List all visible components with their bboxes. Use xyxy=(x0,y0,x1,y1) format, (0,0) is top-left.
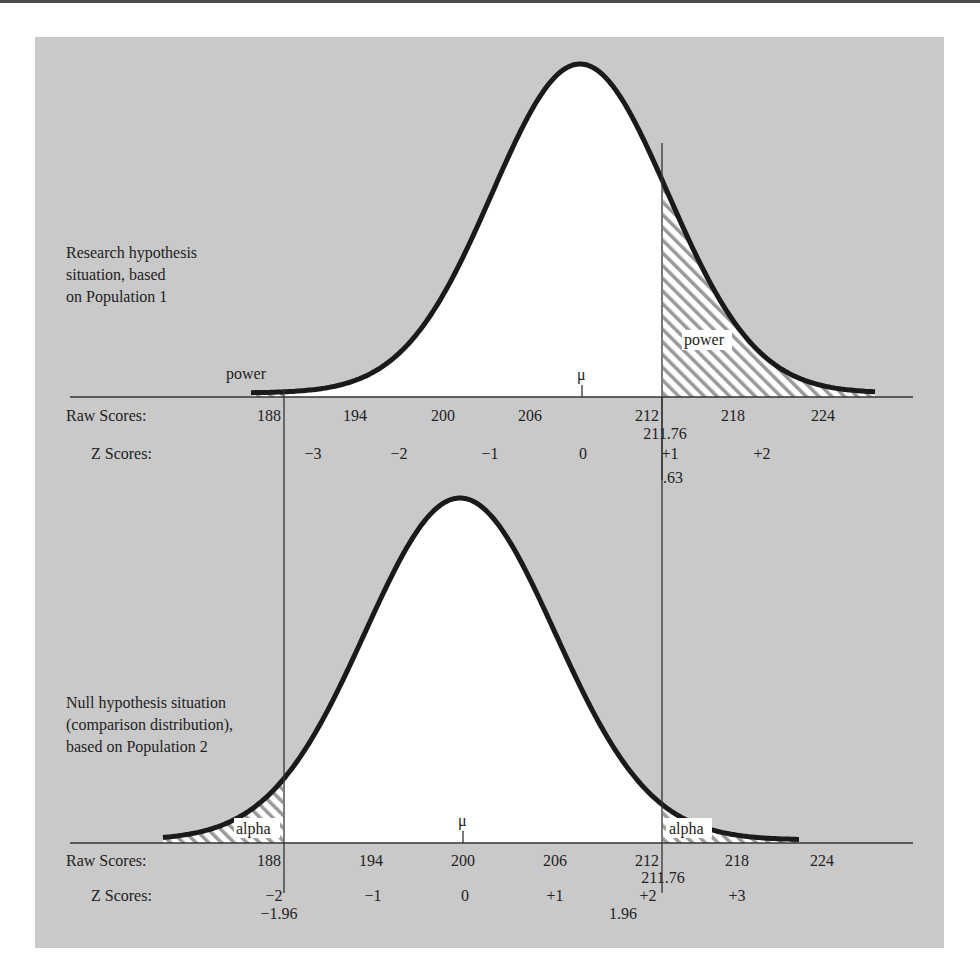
null-label-line3: based on Population 2 xyxy=(66,738,208,756)
raw-tick: 218 xyxy=(725,852,749,869)
research-raw-scores-label: Raw Scores: xyxy=(66,407,146,424)
raw-tick: 212 xyxy=(635,852,659,869)
null-curve-fill xyxy=(163,498,799,843)
research-curve-fill xyxy=(251,64,875,397)
research-raw-ticks: 188 194 200 206 212 218 224 xyxy=(257,407,835,424)
research-cutoff-raw-label: 211.76 xyxy=(643,425,686,442)
raw-tick: 200 xyxy=(451,852,475,869)
null-label-line2: (comparison distribution), xyxy=(66,716,233,734)
research-distribution xyxy=(251,64,875,397)
raw-tick: 188 xyxy=(257,407,281,424)
research-power-label-left: power xyxy=(226,365,267,383)
z-tick: +1 xyxy=(546,887,563,904)
z-tick: −2 xyxy=(265,887,282,904)
z-tick: −3 xyxy=(304,445,321,462)
null-cutoff-raw-label: 211.76 xyxy=(641,869,684,886)
z-tick: −1 xyxy=(481,445,498,462)
null-alpha-label-left: alpha xyxy=(236,820,271,838)
raw-tick: 194 xyxy=(359,852,383,869)
research-label-line3: on Population 1 xyxy=(66,288,167,306)
research-z-ticks: −3 −2 −1 0 +1 +2 xyxy=(304,445,770,462)
z-tick: −1 xyxy=(364,887,381,904)
z-tick: 0 xyxy=(461,887,469,904)
null-cutoff-z-label-left: −1.96 xyxy=(260,905,297,922)
raw-tick: 200 xyxy=(431,407,455,424)
null-raw-ticks: 188 194 200 206 212 218 224 xyxy=(257,852,834,869)
research-power-region-right xyxy=(663,182,875,397)
raw-tick: 206 xyxy=(543,852,567,869)
research-label-line1: Research hypothesis xyxy=(66,244,197,262)
null-cutoff-z-label-right: 1.96 xyxy=(609,905,637,922)
null-z-scores-label: Z Scores: xyxy=(91,887,152,904)
null-distribution xyxy=(163,498,799,843)
z-tick: +3 xyxy=(728,887,745,904)
z-tick: +2 xyxy=(753,445,770,462)
raw-tick: 194 xyxy=(343,407,367,424)
raw-tick: 206 xyxy=(518,407,542,424)
raw-tick: 224 xyxy=(810,852,834,869)
null-mu-label: μ xyxy=(458,812,467,830)
z-tick: 0 xyxy=(579,445,587,462)
raw-tick: 212 xyxy=(635,407,659,424)
null-raw-scores-label: Raw Scores: xyxy=(66,852,146,869)
raw-tick: 218 xyxy=(721,407,745,424)
power-figure: Research hypothesis situation, based on … xyxy=(0,0,980,978)
raw-tick: 188 xyxy=(257,852,281,869)
research-label-line2: situation, based xyxy=(66,266,166,283)
research-power-label-right: power xyxy=(684,331,725,349)
z-tick: +2 xyxy=(639,887,656,904)
raw-tick: 224 xyxy=(811,407,835,424)
z-tick: −2 xyxy=(390,445,407,462)
null-label-line1: Null hypothesis situation xyxy=(66,694,226,712)
null-alpha-label-right: alpha xyxy=(669,820,704,838)
research-mu-label: μ xyxy=(577,366,586,384)
research-cutoff-z-label: .63 xyxy=(663,469,683,486)
null-z-ticks: −2 −1 0 +1 +2 +3 xyxy=(265,887,745,904)
research-z-scores-label: Z Scores: xyxy=(91,445,152,462)
z-tick: +1 xyxy=(661,445,678,462)
